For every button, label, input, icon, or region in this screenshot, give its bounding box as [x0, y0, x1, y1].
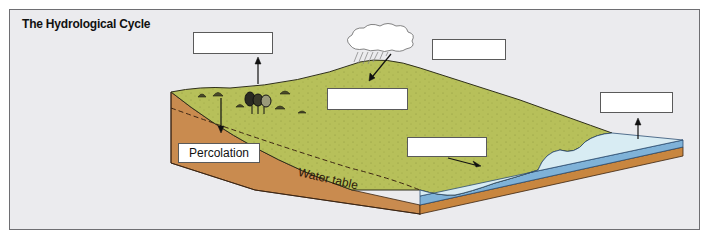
label-box-evapotranspiration[interactable]	[193, 32, 273, 54]
label-box-runoff[interactable]	[407, 137, 487, 157]
label-box-precipitation[interactable]	[432, 39, 506, 60]
cloud-icon	[347, 24, 413, 52]
hydrological-scene	[0, 0, 708, 240]
label-box-infiltration[interactable]	[327, 88, 408, 110]
label-box-evaporation[interactable]	[600, 92, 673, 113]
label-box-percolation[interactable]: Percolation	[178, 143, 260, 163]
